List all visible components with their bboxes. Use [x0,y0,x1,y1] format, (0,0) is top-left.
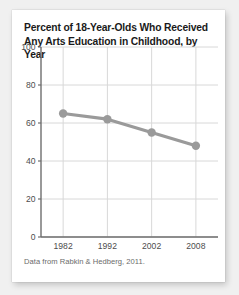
screenshot-root: Percent of 18-Year-Olds Who Received Any… [0,0,239,295]
data-point-marker [192,142,200,150]
source-note: Data from Rabkin & Hedberg, 2011. [24,257,145,266]
line-chart: 020406080100 1982199220022008 [12,10,225,282]
x-axis-tick-label: 1992 [98,241,117,251]
data-point-marker [59,109,67,117]
y-axis-tick-label: 100 [21,42,36,52]
y-axis-tick-label: 20 [26,194,36,204]
y-axis-spine-group [38,47,41,237]
y-axis-tick-label: 80 [26,80,36,90]
y-axis-tick-labels: 020406080100 [21,42,36,242]
series-line-group [63,114,196,146]
chart-card: Percent of 18-Year-Olds Who Received Any… [12,10,225,282]
series-line [63,114,196,146]
plot-area: 020406080100 1982199220022008 [12,10,225,282]
x-axis-tick-label: 2002 [142,241,161,251]
y-axis-tick-label: 40 [26,156,36,166]
x-axis-tick-label: 2008 [186,241,205,251]
x-axis-tick-label: 1982 [54,241,73,251]
data-point-marker [103,115,111,123]
x-axis-tick-labels: 1982199220022008 [54,241,206,251]
y-axis-tick-label: 0 [31,232,36,242]
gridlines-group [41,47,218,237]
y-axis-tick-label: 60 [26,118,36,128]
data-point-marker [147,128,155,136]
